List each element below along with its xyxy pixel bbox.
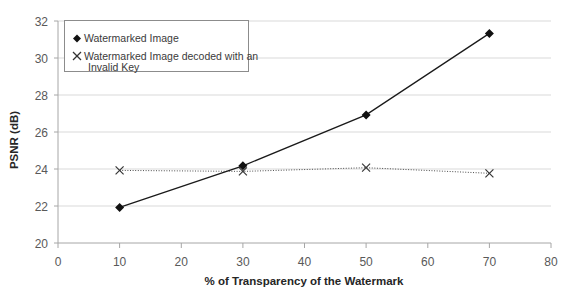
x-tick-labels: 0 10 20 30 40 50 60 70 80 — [55, 255, 558, 269]
y-tick-label-30: 30 — [35, 52, 49, 66]
x-tick-label-20: 20 — [175, 255, 189, 269]
x-tick-label-0: 0 — [55, 255, 62, 269]
y-axis-title: PSNR (dB) — [8, 111, 20, 169]
marker-diamond-10 — [115, 203, 124, 212]
x-tick-label-50: 50 — [359, 255, 373, 269]
chart-container: 32 30 28 26 24 22 20 0 10 20 30 40 50 60… — [0, 0, 574, 297]
y-axis-ticks — [54, 21, 58, 243]
legend-label-invalid-key-line-2: Invalid Key — [88, 61, 140, 73]
y-tick-label-28: 28 — [35, 89, 49, 103]
y-tick-label-32: 32 — [35, 15, 49, 29]
x-tick-label-40: 40 — [298, 255, 312, 269]
y-tick-label-24: 24 — [35, 163, 49, 177]
marker-diamond-70 — [485, 29, 494, 38]
legend-entry-watermarked-image[interactable]: Watermarked Image — [73, 32, 179, 44]
x-tick-label-60: 60 — [421, 255, 435, 269]
y-tick-label-20: 20 — [35, 237, 49, 251]
psnr-line-chart: 32 30 28 26 24 22 20 0 10 20 30 40 50 60… — [0, 0, 574, 297]
series-invalid-key — [116, 164, 494, 178]
y-tick-label-26: 26 — [35, 126, 49, 140]
x-tick-label-10: 10 — [113, 255, 127, 269]
x-tick-label-80: 80 — [544, 255, 558, 269]
y-tick-labels: 32 30 28 26 24 22 20 — [35, 15, 49, 251]
legend[interactable]: Watermarked Image Watermarked Image deco… — [65, 21, 259, 73]
x-tick-label-70: 70 — [483, 255, 497, 269]
legend-label-watermarked-image: Watermarked Image — [84, 32, 179, 44]
x-tick-label-30: 30 — [236, 255, 250, 269]
marker-x-50 — [362, 164, 370, 172]
marker-diamond-50 — [362, 110, 371, 119]
x-axis-ticks — [58, 243, 551, 248]
x-axis-title: % of Transparency of the Watermark — [205, 275, 405, 287]
y-tick-label-22: 22 — [35, 200, 49, 214]
